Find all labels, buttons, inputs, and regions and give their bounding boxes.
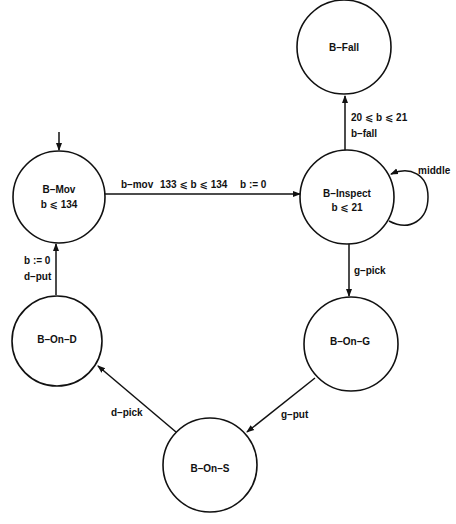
- timed-automaton-diagram: b–mov 133 ⩽ b ⩽ 134 b := 0 20 ⩽ b ⩽ 21 b…: [0, 0, 456, 524]
- edge-label-b-fall-action: b–fall: [351, 128, 377, 139]
- state-circle: [13, 151, 105, 243]
- edge-b-on-s-to-b-on-d: [98, 366, 176, 432]
- state-name: B–On–D: [37, 334, 76, 345]
- state-b-on-s: B–On–S: [163, 418, 257, 512]
- edge-label-b-mov-action: b–mov: [121, 179, 154, 190]
- edge-label-d-pick: d–pick: [111, 407, 143, 418]
- state-b-on-g: B–On–G: [304, 297, 398, 391]
- state-name: B–Inspect: [323, 188, 371, 199]
- state-b-on-d: B–On–D: [12, 296, 102, 386]
- edge-label-middle: middle: [418, 165, 451, 176]
- diagram-canvas: b–mov 133 ⩽ b ⩽ 134 b := 0 20 ⩽ b ⩽ 21 b…: [0, 0, 456, 524]
- edge-label-g-pick: g–pick: [354, 265, 386, 276]
- state-b-fall: B–Fall: [297, 0, 391, 94]
- edge-b-on-g-to-b-on-s: [247, 378, 315, 432]
- edge-label-d-put-action: d–put: [24, 271, 52, 282]
- edge-label-b-mov-reset: b := 0: [240, 179, 267, 190]
- edge-label-b-fall-guard: 20 ⩽ b ⩽ 21: [351, 112, 408, 123]
- state-b-mov: B–Mov b ⩽ 134: [13, 151, 105, 243]
- state-invariant: b ⩽ 21: [331, 202, 363, 213]
- state-name: B–Mov: [43, 184, 76, 195]
- edge-label-d-put-reset: b := 0: [24, 255, 51, 266]
- edge-label-g-put: g–put: [281, 409, 309, 420]
- state-invariant: b ⩽ 134: [41, 199, 78, 210]
- state-name: B–On–S: [191, 463, 230, 474]
- state-b-inspect: B–Inspect b ⩽ 21: [300, 150, 394, 244]
- state-name: B–On–G: [330, 336, 370, 347]
- edge-label-b-mov-guard: 133 ⩽ b ⩽ 134: [160, 179, 228, 190]
- state-name: B–Fall: [329, 42, 359, 53]
- edge-b-inspect-self-loop: [389, 171, 428, 225]
